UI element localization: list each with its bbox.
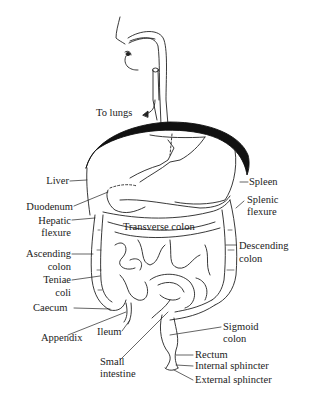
label-sigmoid-colon-line1: Sigmoid [223,321,259,333]
label-small-intestine-line2: intestine [100,368,136,380]
label-ascending-colon-line2: colon [48,261,71,273]
label-appendix: Appendix [41,332,82,344]
label-to-lungs: To lungs [96,107,132,119]
label-sigmoid-colon-line2: colon [223,333,246,345]
label-liver: Liver [46,175,69,187]
label-hepatic-flexure-line2: flexure [41,227,71,239]
label-splenic-flexure-line2: flexure [247,206,277,218]
label-splenic-flexure-line1: Splenic [247,194,279,206]
small-intestine [115,240,210,318]
label-external-sphincter: External sphincter [195,374,272,386]
label-ascending-colon-line1: Ascending [26,248,71,260]
label-internal-sphincter: Internal sphincter [195,360,269,372]
liver-stomach [87,134,236,215]
label-ileum: Ileum [97,326,122,338]
label-small-intestine-line1: Small [100,356,125,368]
label-teniae-coli-line2: coli [55,287,71,299]
label-spleen: Spleen [249,176,278,188]
diaphragm [86,122,249,175]
label-transverse-colon: Transverse colon [123,221,195,233]
label-caecum: Caecum [33,302,67,314]
label-duodenum: Duodenum [26,201,73,213]
label-descending-colon-line1: Descending [239,240,289,252]
label-descending-colon-line2: colon [239,253,262,265]
label-hepatic-flexure-line1: Hepatic [38,215,71,227]
label-teniae-coli-line1: Teniae [43,274,71,286]
